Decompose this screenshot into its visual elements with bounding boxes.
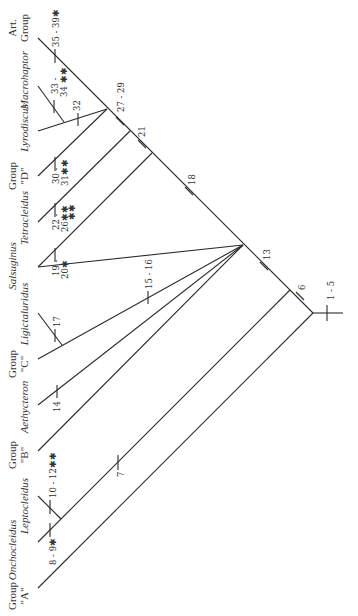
taxon-group-a-l2: "A" bbox=[18, 588, 30, 605]
taxon-group-c-l2: "C" bbox=[18, 356, 30, 372]
branch-lyrodiscus bbox=[38, 109, 107, 176]
char-8-9: 8 - 9✱ bbox=[48, 538, 58, 565]
char-7: 7 bbox=[116, 472, 126, 477]
tick-13 bbox=[260, 262, 268, 270]
char-13: 13 bbox=[262, 249, 272, 260]
main-spine bbox=[38, 38, 313, 313]
char-30-31b: 31✱✱ bbox=[60, 159, 70, 186]
tick-6 bbox=[296, 292, 304, 300]
char-27-29: 27 - 29 bbox=[116, 82, 126, 112]
char-6: 6 bbox=[297, 285, 307, 290]
taxon-art-group-l2: Group bbox=[18, 13, 30, 42]
taxon-group-b-l2: "B" bbox=[18, 447, 30, 463]
char-32: 32 bbox=[72, 100, 82, 111]
char-21: 21 bbox=[137, 126, 147, 137]
taxon-lyrodiscus: Lyrodiscus bbox=[18, 104, 30, 153]
char-15-16: 15 - 16 bbox=[144, 259, 154, 289]
taxon-group-b-l1: Group bbox=[6, 440, 18, 469]
taxon-macrohaptor: Macrohaptor bbox=[18, 50, 30, 110]
taxon-group-d-l2: "D" bbox=[18, 168, 30, 185]
branch-macrohaptor-stem bbox=[38, 109, 107, 131]
char-1-5: 1 - 5 bbox=[326, 281, 336, 300]
branch-group-a bbox=[38, 313, 313, 588]
taxon-group-a-l1: Group bbox=[6, 581, 18, 610]
char-22-26c: ✱✱ bbox=[67, 204, 77, 220]
taxon-group-c-l1: Group bbox=[6, 349, 18, 378]
char-14: 14 bbox=[52, 401, 62, 412]
taxon-tetracleidus: Tetracleidus bbox=[18, 191, 30, 245]
char-19-20b: 20✱ bbox=[60, 260, 70, 279]
branch-onch-lept bbox=[38, 290, 290, 542]
tick-18 bbox=[185, 187, 193, 195]
char-17: 17 bbox=[52, 316, 62, 327]
tick-21 bbox=[138, 140, 146, 148]
char-18: 18 bbox=[187, 174, 197, 185]
taxon-aethycteron: Aethycteron bbox=[18, 380, 30, 434]
taxon-salsuginus: Salsuginus bbox=[6, 242, 18, 290]
taxon-leptocleidus: Leptocleidus bbox=[18, 478, 30, 535]
taxon-art-group-l1: Art. bbox=[6, 19, 18, 37]
taxon-onchocleidus: Onchocleidus bbox=[6, 520, 18, 580]
char-33-34b: 34 ✱✱ bbox=[59, 67, 69, 97]
tick-27-29 bbox=[116, 117, 124, 125]
char-35-39: 35 - 39✱ bbox=[51, 9, 61, 47]
taxon-ligictaluridus: Ligictaluridus bbox=[18, 283, 30, 346]
cladogram: 1 - 5 6 7 8 - 9✱ 10 - 12✱✱ 13 14 15 - 16… bbox=[0, 0, 358, 616]
char-10-12: 10 - 12✱✱ bbox=[48, 452, 58, 498]
taxon-group-d-l1: Group bbox=[6, 161, 18, 190]
